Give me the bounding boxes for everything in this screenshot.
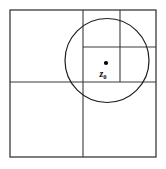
center-point-label: z0 [99,69,107,80]
neighborhood-circle [65,19,149,103]
point-label-subscript: 0 [103,73,106,80]
quadtree-figure: z0 [0,0,166,169]
diagram-canvas: z0 [0,0,166,169]
center-point-dot [104,61,108,65]
